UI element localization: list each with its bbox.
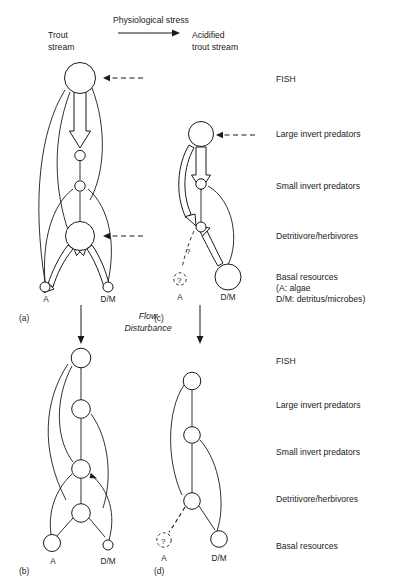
panel-a-graph: [39, 63, 143, 293]
node-a-small-invert: [75, 181, 85, 191]
node-b-fish: [71, 348, 91, 368]
panel-label-a: (a): [19, 313, 29, 324]
panel-a-fish-dashed-pointer: [103, 75, 143, 81]
link-a-fish-small-invert: [90, 88, 102, 200]
tier-label-fish-bottom: FISH: [276, 356, 296, 367]
link-c-large-to-detritivore-thick: [179, 145, 196, 226]
tier-label-basal-note-algae: (A: algae: [276, 283, 311, 294]
trout-stream-header-line1: Trout: [48, 30, 68, 41]
node-b-detritus: [103, 540, 113, 550]
node-a-detritus: [103, 282, 113, 292]
node-d-detritivore: [184, 493, 201, 510]
node-label-d-algae: A: [157, 553, 171, 564]
flow-disturbance-label-line2: Disturbance: [100, 323, 196, 334]
tier-label-fish-top: FISH: [276, 74, 296, 85]
node-label-c-uncertain-qmark: ?: [177, 275, 181, 286]
node-c-small-invert: [196, 179, 206, 189]
link-a-fish-to-large-invert-thick: [70, 92, 91, 148]
panel-d-graph: [157, 372, 228, 547]
node-a-detritivore: [66, 222, 95, 251]
node-b-algae: [44, 535, 61, 552]
link-b-detritivore-to-algae: [56, 518, 73, 537]
flow-disturbance-label-line1: Flow: [112, 311, 184, 322]
tier-label-detritivore-herbivores-bottom: Detritivore/herbivores: [276, 494, 358, 505]
node-a-fish: [65, 63, 96, 94]
node-label-d-uncertain-qmark: ?: [161, 536, 165, 547]
panel-c-large-invert-dashed-pointer: [216, 132, 255, 138]
node-c-detritivore: [196, 222, 206, 232]
link-b-small-invert-to-detritus: [90, 474, 112, 540]
node-label-b-detritus: D/M: [96, 556, 120, 567]
link-b-small-invert-to-algae: [50, 474, 72, 534]
node-a-large-invert: [75, 150, 85, 160]
node-b-detritivore: [72, 504, 91, 523]
panel-c-graph: [174, 122, 255, 291]
tier-label-basal-note-detritus: D/M: detritus/microbes): [276, 294, 365, 305]
node-c-detritus: [215, 264, 241, 290]
trout-stream-header-line2: stream: [48, 42, 74, 53]
acidified-trout-stream-header-line1: Acidified: [192, 30, 225, 41]
node-b-large-invert: [72, 400, 91, 419]
food-web-figure: Physiological stress Trout stream Acidif…: [0, 0, 398, 580]
panel-label-b: (b): [19, 566, 29, 577]
panel-a-detritivore-dashed-pointer: [103, 233, 143, 239]
tier-label-large-invert-predators-top: Large invert predators: [276, 129, 361, 140]
tier-label-basal-resources-top: Basal resources: [276, 272, 338, 283]
node-label-d-detritus: D/M: [207, 553, 231, 564]
physiological-stress-arrow: [118, 30, 180, 37]
tier-label-basal-resources-bottom: Basal resources: [276, 541, 338, 552]
link-b-fish-to-small-invert: [59, 366, 73, 462]
tier-label-detritivore-herbivores-top: Detritivore/herbivores: [276, 231, 358, 242]
node-a-algae: [40, 282, 50, 292]
node-d-detritus: [211, 531, 228, 548]
node-b-small-invert: [72, 460, 91, 479]
panel-label-c: (c): [154, 313, 164, 324]
panel-label-d: (d): [154, 566, 164, 577]
node-label-b-algae: A: [46, 556, 60, 567]
tier-label-small-invert-predators-bottom: Small invert predators: [276, 447, 360, 458]
tier-label-large-invert-predators-bottom: Large invert predators: [276, 400, 361, 411]
node-c-large-invert: [189, 122, 214, 147]
node-d-large-invert: [183, 372, 201, 390]
node-label-c-detritus: D/M: [216, 292, 240, 303]
link-label-c-uncertain-qmark: ?: [186, 246, 190, 257]
link-d-small-invert-to-detritus: [200, 440, 221, 531]
link-b-arrowhead-mark: [90, 473, 98, 479]
flow-disturbance-arrow-left: [78, 305, 85, 344]
node-label-c-algae: A: [173, 292, 187, 303]
food-web-svg: [0, 0, 398, 580]
node-d-small-invert: [184, 427, 201, 444]
link-d-detritivore-to-detritus: [199, 506, 215, 530]
link-b-detritivore-to-detritus: [89, 518, 105, 537]
node-label-a-algae: A: [39, 294, 53, 305]
flow-disturbance-arrow-right: [197, 305, 204, 344]
link-a-fish-detritivore: [57, 92, 70, 233]
link-d-detritivore-to-algae-dashed: [169, 507, 185, 532]
panel-b-graph: [44, 348, 114, 551]
link-b-fish-to-detritivore: [48, 364, 68, 500]
tier-label-small-invert-predators-top: Small invert predators: [276, 181, 360, 192]
acidified-trout-stream-header-line2: trout stream: [192, 42, 238, 53]
link-a-fish-algae: [39, 90, 65, 282]
physiological-stress-label: Physiological stress: [113, 15, 189, 26]
link-d-large-to-detritivore: [171, 385, 184, 495]
node-label-a-detritus: D/M: [96, 294, 120, 305]
